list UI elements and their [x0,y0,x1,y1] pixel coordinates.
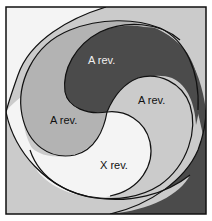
label-left-lobe: A rev. [50,114,77,126]
label-bottom-lobe: X rev. [100,159,128,171]
swirl-diagram: A rev. A rev. A rev. X rev. [0,0,212,221]
label-right-lobe: A rev. [138,94,165,106]
label-top-lobe: A rev. [88,54,115,66]
